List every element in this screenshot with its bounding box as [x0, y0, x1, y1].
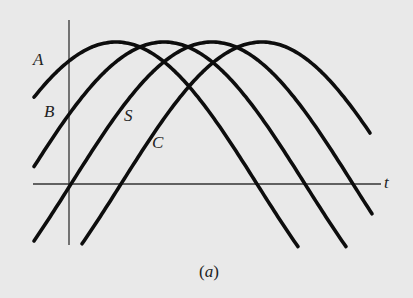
- curves-group: [34, 42, 372, 247]
- waveform-plot: [0, 0, 413, 298]
- caption-paren-close: ): [213, 262, 219, 281]
- figure-caption: (a): [199, 263, 219, 280]
- caption-letter: a: [205, 262, 214, 281]
- curve-label-s: S: [124, 107, 133, 124]
- curve-label-c: C: [152, 134, 163, 151]
- curve-b: [34, 42, 346, 247]
- axis-label-t: t: [384, 174, 389, 191]
- curve-a: [34, 42, 298, 247]
- figure-a: A B S C t (a): [0, 0, 413, 298]
- curve-label-a: A: [33, 51, 43, 68]
- curve-label-b: B: [44, 103, 54, 120]
